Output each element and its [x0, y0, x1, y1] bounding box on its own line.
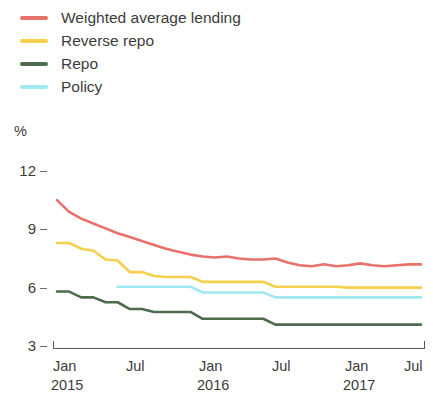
x-axis-left-cap: [53, 341, 54, 349]
series-line-weighted-average-lending: [57, 200, 421, 266]
x-tick-label-jul-2017: Jul: [404, 358, 423, 374]
x-axis-right-cap: [424, 341, 425, 349]
x-axis-line: [53, 348, 425, 349]
x-tick-year-2017: 2017: [343, 377, 375, 393]
x-tick-label-jan-2017: Jan: [345, 358, 368, 374]
x-tick-year-2015: 2015: [51, 377, 83, 393]
x-tick-label-jul-2015: Jul: [126, 358, 145, 374]
x-tick-label-jul-2016: Jul: [272, 358, 291, 374]
line-chart-figure: Weighted average lending Reverse repo Re…: [0, 0, 433, 400]
x-tick-label-jan-2015: Jan: [53, 358, 76, 374]
series-lines: [0, 0, 433, 400]
x-tick-year-2016: 2016: [197, 377, 229, 393]
x-tick-label-jan-2016: Jan: [199, 358, 222, 374]
plot-area: % 12 9 6 3 Jan 2015 Jul Jan 2016 Jul Jan…: [0, 0, 433, 400]
